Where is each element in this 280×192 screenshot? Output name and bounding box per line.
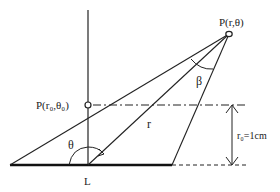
- label-line-L: L: [84, 175, 91, 187]
- beta-arc: [191, 59, 213, 69]
- ray-r: [88, 34, 229, 165]
- diagram-canvas: P(r,θ) P(r₀,θ₀) β θ r r₀=1cm L: [0, 0, 280, 192]
- point-p-marker: [226, 31, 232, 36]
- ray-right: [172, 34, 229, 165]
- label-r: r: [147, 117, 151, 131]
- label-point-p0: P(r₀,θ₀): [36, 99, 69, 112]
- label-distance: r₀=1cm: [237, 130, 267, 141]
- label-theta: θ: [68, 138, 74, 152]
- label-point-p: P(r,θ): [219, 16, 244, 29]
- label-beta: β: [196, 74, 202, 88]
- point-p0-marker: [85, 102, 91, 108]
